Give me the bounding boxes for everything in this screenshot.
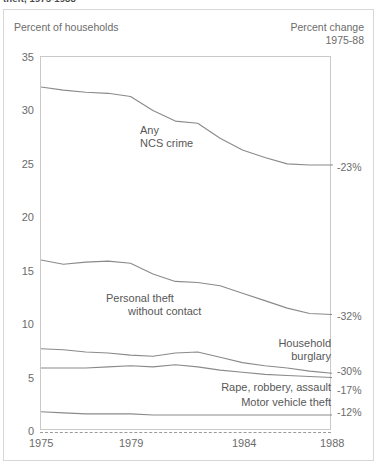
x-tick-1984: 1984 bbox=[232, 437, 256, 449]
change-label-motor-vehicle-theft: -12% bbox=[337, 407, 362, 417]
y-tick-20: 20 bbox=[0, 212, 34, 222]
figure-container: theft, 1975-1988 Percent of households P… bbox=[0, 0, 378, 466]
change-label-household-burglary: -30% bbox=[337, 366, 362, 376]
x-tick-1979: 1979 bbox=[119, 437, 143, 449]
change-label-personal-theft: -32% bbox=[337, 311, 362, 321]
y-tick-15: 15 bbox=[0, 266, 34, 276]
annotation-rape-robbery-assault: Rape, robbery, assault bbox=[221, 381, 331, 394]
y-axis-title: Percent of households bbox=[14, 21, 119, 33]
series-svg bbox=[40, 56, 333, 432]
y-tick-10: 10 bbox=[0, 319, 34, 329]
x-axis-dashed-baseline bbox=[40, 432, 331, 433]
percent-change-header-line2: 1975-88 bbox=[290, 34, 364, 47]
y-tick-35: 35 bbox=[0, 52, 34, 62]
percent-change-header: Percent change 1975-88 bbox=[290, 21, 364, 46]
figure-caption-text: theft, 1975-1988 bbox=[3, 0, 76, 4]
annotation-personal-theft-line1: Personal theft bbox=[106, 292, 201, 305]
change-label-any-ncs-crime: -23% bbox=[337, 162, 362, 172]
annotation-any-ncs-crime: Any NCS crime bbox=[140, 124, 193, 150]
annotation-household-burglary-line1: Household bbox=[278, 337, 331, 350]
annotation-motor-vehicle-theft: Motor vehicle theft bbox=[241, 396, 331, 409]
annotation-personal-theft: Personal theft without contact bbox=[106, 292, 201, 318]
annotation-personal-theft-line2: without contact bbox=[106, 305, 201, 318]
y-tick-5: 5 bbox=[0, 373, 34, 383]
plot-area bbox=[40, 56, 331, 430]
x-tick-1975: 1975 bbox=[29, 437, 53, 449]
annotation-household-burglary-line2: burglary bbox=[278, 350, 331, 363]
series-line-motor-vehicle-theft bbox=[41, 412, 332, 415]
annotation-any-ncs-crime-line1: Any bbox=[140, 124, 193, 137]
annotation-any-ncs-crime-line2: NCS crime bbox=[140, 137, 193, 150]
annotation-household-burglary: Household burglary bbox=[278, 337, 331, 363]
y-tick-0: 0 bbox=[0, 426, 34, 436]
change-label-rape-robbery-assault: -17% bbox=[337, 385, 362, 395]
x-tick-1988: 1988 bbox=[320, 437, 344, 449]
y-tick-25: 25 bbox=[0, 159, 34, 169]
figure-caption-clipped: theft, 1975-1988 bbox=[0, 0, 378, 8]
y-tick-30: 30 bbox=[0, 105, 34, 115]
series-line-rape-robbery-assault bbox=[41, 365, 332, 378]
percent-change-header-line1: Percent change bbox=[290, 21, 364, 34]
